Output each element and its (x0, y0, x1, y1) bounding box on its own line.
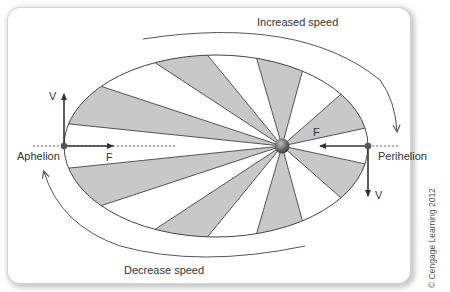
aphelion-force-label: F (106, 152, 113, 163)
orbit-diagram (0, 0, 450, 292)
sun-icon (275, 139, 290, 154)
perihelion-force-label: F (313, 127, 320, 138)
perihelion-planet (365, 143, 372, 150)
increased-speed-label: Increased speed (257, 17, 338, 28)
perihelion-label: Perihelion (378, 151, 427, 162)
aphelion-velocity-label: V (49, 91, 56, 102)
perihelion-velocity-label: V (375, 190, 382, 201)
sector-4 (282, 88, 375, 146)
aphelion-label: Aphelion (17, 151, 60, 162)
sector-5 (282, 146, 375, 204)
copyright-notice: © Cengage Learning 2012 (428, 188, 437, 288)
aphelion-planet (61, 143, 68, 150)
decrease-speed-label: Decrease speed (124, 265, 204, 276)
